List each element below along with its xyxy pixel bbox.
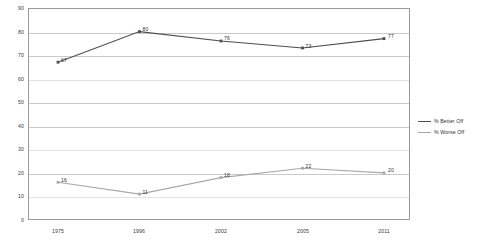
legend: % Better Off % Worse Off [418, 116, 486, 138]
y-axis-tick: 80 [2, 29, 24, 35]
y-axis-tick: 90 [2, 5, 24, 11]
y-axis-tick: 30 [2, 146, 24, 152]
x-axis-tick: 2005 [283, 228, 323, 235]
data-point-label: 67 [61, 57, 67, 63]
gridline [29, 56, 409, 57]
gridline [29, 150, 409, 151]
x-axis-tick: 1975 [38, 228, 78, 235]
y-axis-tick: 70 [2, 52, 24, 58]
line-chart: 90 80 70 60 50 40 30 20 10 0 1975 1996 2… [0, 0, 488, 248]
gridline [29, 80, 409, 81]
data-point-label: 80 [143, 26, 149, 32]
y-axis-tick: 10 [2, 193, 24, 199]
legend-swatch-worse-off [418, 132, 431, 133]
legend-label-better-off: % Better Off [434, 118, 463, 125]
data-point-label: 20 [388, 167, 394, 173]
y-axis-tick: 20 [2, 170, 24, 176]
gridline [29, 127, 409, 128]
y-axis-tick: 50 [2, 99, 24, 105]
data-point-label: 22 [306, 163, 312, 169]
gridline [29, 174, 409, 175]
data-point-label: 77 [388, 33, 394, 39]
gridline [29, 103, 409, 104]
legend-item-worse-off: % Worse Off [418, 127, 486, 138]
x-axis-tick: 2011 [364, 228, 404, 235]
x-axis-tick: 2002 [201, 228, 241, 235]
data-point-label: 76 [224, 35, 230, 41]
x-axis-tick: 1996 [119, 228, 159, 235]
gridline [29, 197, 409, 198]
plot-area [28, 8, 410, 220]
data-point-label: 73 [306, 43, 312, 49]
legend-label-worse-off: % Worse Off [434, 129, 464, 136]
data-point-label: 18 [224, 172, 230, 178]
gridline [29, 33, 409, 34]
y-axis-tick: 40 [2, 123, 24, 129]
legend-swatch-better-off [418, 121, 431, 122]
y-axis-tick: 60 [2, 76, 24, 82]
y-axis-tick: 0 [2, 217, 24, 223]
data-point-label: 16 [61, 177, 67, 183]
legend-item-better-off: % Better Off [418, 116, 486, 127]
data-point-label: 11 [143, 189, 148, 195]
